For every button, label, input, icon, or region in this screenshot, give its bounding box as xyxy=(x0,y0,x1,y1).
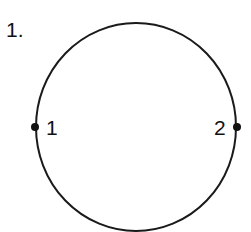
circle xyxy=(36,23,236,231)
point-2-label: 2 xyxy=(214,117,226,138)
point-2-dot xyxy=(233,123,241,131)
point-1-dot xyxy=(31,123,39,131)
problem-number: 1. xyxy=(6,19,24,40)
point-1-label: 1 xyxy=(46,117,58,138)
